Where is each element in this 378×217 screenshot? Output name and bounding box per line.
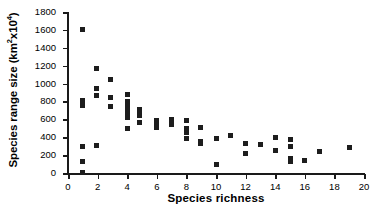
y-axis-tick: 1000	[63, 84, 68, 86]
data-point-marker	[154, 125, 159, 130]
data-point-marker	[169, 122, 174, 127]
data-point-marker	[80, 27, 85, 32]
data-point-marker	[302, 158, 307, 163]
data-point-marker	[125, 115, 130, 120]
y-axis-tick-label: 1200	[26, 60, 56, 71]
y-axis-tick-label: 1800	[26, 6, 56, 17]
y-axis-tick-label: 200	[26, 149, 56, 160]
data-point-marker	[228, 133, 233, 138]
data-point-marker	[214, 136, 219, 141]
x-axis-title: Species richness	[68, 192, 364, 204]
data-point-marker	[108, 104, 113, 109]
data-point-marker	[80, 170, 85, 175]
x-axis-tick	[68, 174, 70, 179]
y-axis-tick: 1400	[63, 48, 68, 50]
y-axis-tick: 200	[63, 155, 68, 157]
y-axis-tick-label: 800	[26, 95, 56, 106]
data-point-marker	[137, 120, 142, 125]
data-point-marker	[94, 93, 99, 98]
data-point-marker	[273, 135, 278, 140]
x-axis-tick-label: 0	[56, 181, 80, 192]
x-axis-tick	[186, 174, 188, 179]
x-axis-tick	[98, 174, 100, 179]
data-point-marker	[108, 95, 113, 100]
data-point-marker	[80, 159, 85, 164]
y-axis-line	[67, 12, 69, 174]
data-point-marker	[198, 141, 203, 146]
data-point-marker	[258, 142, 263, 147]
x-axis-tick-label: 14	[263, 181, 287, 192]
data-point-marker	[108, 77, 113, 82]
y-axis-tick-label: 1400	[26, 42, 56, 53]
x-axis-tick	[157, 174, 159, 179]
y-axis-tick-label: 1600	[26, 24, 56, 35]
data-point-marker	[94, 66, 99, 71]
y-axis-title: Species range size (km2x104)	[2, 2, 22, 178]
data-point-marker	[243, 151, 248, 156]
data-point-marker	[198, 125, 203, 130]
x-axis-tick-label: 20	[352, 181, 376, 192]
data-point-marker	[125, 92, 130, 97]
y-axis-tick: 400	[63, 137, 68, 139]
data-point-marker	[243, 141, 248, 146]
y-axis-tick: 1600	[63, 30, 68, 32]
y-axis-tick: 1200	[63, 66, 68, 68]
x-axis-tick	[364, 174, 366, 179]
data-point-marker	[347, 145, 352, 150]
data-point-marker	[80, 98, 85, 103]
data-point-marker	[288, 144, 293, 149]
data-point-marker	[214, 162, 219, 167]
data-point-marker	[184, 130, 189, 135]
x-axis-tick	[305, 174, 307, 179]
x-axis-tick-label: 10	[204, 181, 228, 192]
x-axis-tick-label: 18	[322, 181, 346, 192]
plot-area: 020040060080010001200140016001800 024681…	[68, 12, 364, 173]
data-point-marker	[288, 137, 293, 142]
data-point-marker	[94, 86, 99, 91]
x-axis-tick-label: 16	[293, 181, 317, 192]
y-axis-tick-label: 600	[26, 113, 56, 124]
data-point-marker	[184, 136, 189, 141]
data-point-marker	[273, 148, 278, 153]
y-axis-title-text: Species range size (km2x104)	[5, 12, 19, 167]
data-point-marker	[184, 118, 189, 123]
x-axis-tick-label: 12	[234, 181, 258, 192]
x-axis-tick	[127, 174, 129, 179]
x-axis-tick-label: 8	[174, 181, 198, 192]
y-axis-tick: 600	[63, 119, 68, 121]
data-point-marker	[137, 113, 142, 118]
x-axis-tick-label: 6	[145, 181, 169, 192]
scatter-chart-figure: Species range size (km2x104) 02004006008…	[0, 0, 378, 217]
data-point-marker	[80, 103, 85, 108]
y-axis-tick: 800	[63, 101, 68, 103]
data-point-marker	[288, 159, 293, 164]
x-axis-tick-label: 2	[86, 181, 110, 192]
x-axis-tick-label: 4	[115, 181, 139, 192]
y-axis-tick-label: 0	[26, 167, 56, 178]
x-axis-tick	[334, 174, 336, 179]
y-axis-tick: 1800	[63, 12, 68, 14]
y-axis-tick-label: 400	[26, 131, 56, 142]
data-point-marker	[125, 126, 130, 131]
y-axis-tick-label: 1000	[26, 78, 56, 89]
x-axis-tick	[275, 174, 277, 179]
x-axis-tick	[246, 174, 248, 179]
data-point-marker	[317, 149, 322, 154]
data-point-marker	[94, 143, 99, 148]
x-axis-tick	[216, 174, 218, 179]
data-point-marker	[80, 144, 85, 149]
